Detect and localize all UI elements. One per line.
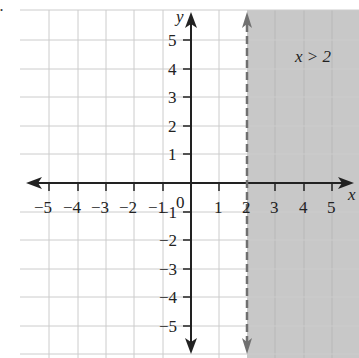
x-tick-label: 5: [327, 199, 336, 216]
x-tick-label: 2: [242, 199, 251, 216]
y-tick-label: 4: [168, 61, 177, 78]
x-tick-label: −5: [34, 199, 52, 216]
x-tick-label: −2: [119, 199, 137, 216]
y-tick-label: −4: [159, 289, 177, 306]
x-tick-label: 3: [270, 199, 279, 216]
x-tick-label: −3: [91, 199, 109, 216]
y-tick-label: 1: [168, 146, 177, 163]
x-tick-label: −4: [63, 199, 81, 216]
x-tick-label: 1: [214, 199, 223, 216]
y-tick-label: 2: [168, 118, 177, 135]
origin-label: 0: [176, 194, 185, 211]
y-tick-label: −2: [159, 232, 177, 249]
x-axis-label: x: [348, 186, 356, 203]
y-tick-label: 5: [168, 32, 177, 49]
region-annotation: x > 2: [295, 48, 331, 65]
y-axis-label: y: [176, 8, 184, 25]
y-tick-label: −3: [159, 261, 177, 278]
y-tick-label: −1: [159, 204, 177, 221]
y-tick-label: 3: [168, 89, 177, 106]
y-tick-label: −5: [159, 318, 177, 335]
x-tick-label: 4: [299, 199, 308, 216]
